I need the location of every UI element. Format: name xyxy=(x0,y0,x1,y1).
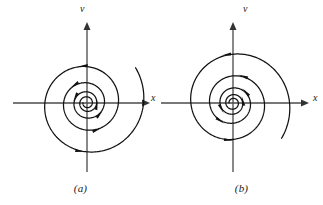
caption-a: (a) xyxy=(0,182,161,194)
flow-arrow xyxy=(221,53,231,56)
panel-a-unstable-spiral: v x (a) xyxy=(0,0,161,205)
flow-arrow xyxy=(73,92,78,101)
x-axis-arrowhead-b xyxy=(301,100,309,107)
panel-a-plot xyxy=(0,0,161,205)
x-axis-label-b: x xyxy=(313,92,317,103)
v-axis-arrowhead-a xyxy=(84,22,91,30)
panel-b-axes xyxy=(161,22,309,172)
x-axis-label-a: x xyxy=(151,92,155,103)
flow-arrow xyxy=(75,149,85,152)
v-axis-label-a: v xyxy=(80,3,84,14)
phase-portrait-figure: v x (a) v x (b) xyxy=(0,0,323,205)
spiral-curve-a xyxy=(45,66,144,152)
flow-arrow xyxy=(243,89,251,97)
flow-arrow xyxy=(78,64,88,67)
panel-a-axes xyxy=(13,22,150,172)
caption-b: (b) xyxy=(161,182,322,194)
v-axis-label-b: v xyxy=(243,3,247,14)
flow-arrow xyxy=(215,117,224,123)
flow-arrow xyxy=(96,110,103,118)
spiral-curve-b xyxy=(191,54,290,140)
v-axis-arrowhead-b xyxy=(230,22,237,30)
flow-arrow xyxy=(218,104,224,113)
panel-b-stable-spiral: v x (b) xyxy=(161,0,322,205)
panel-b-plot xyxy=(161,0,322,205)
flow-arrow xyxy=(239,75,249,80)
